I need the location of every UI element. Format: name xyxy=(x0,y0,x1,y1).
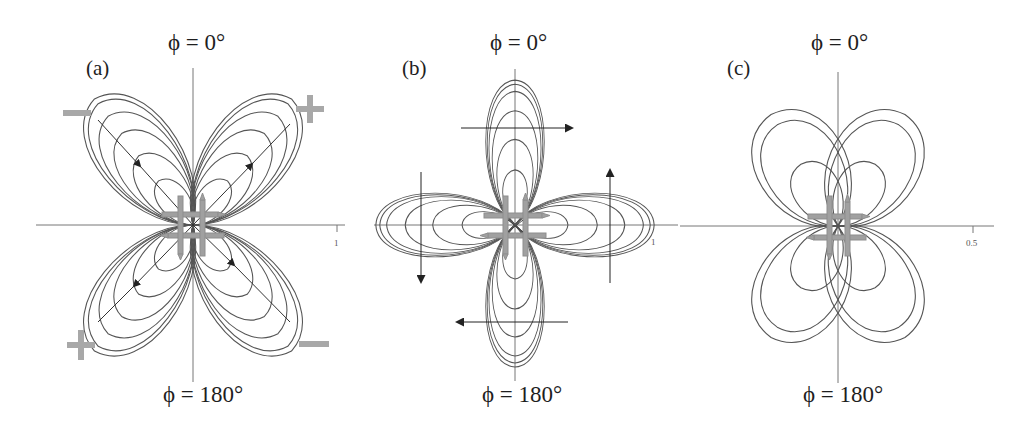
angle-label-bottom-b: ϕ = 180° xyxy=(482,382,562,408)
axis-tick-label-c: 0.5 xyxy=(966,238,977,248)
minus-sign-top-left xyxy=(63,110,91,116)
panel-c: (c) ϕ = 0° ϕ = 180° 0.5 xyxy=(680,0,1030,429)
polar-plot-a xyxy=(0,0,350,429)
axis-tick-label-a: 1 xyxy=(334,238,339,248)
panel-b: (b) ϕ = 0° ϕ = 180° 1 xyxy=(360,0,680,429)
panel-label-c: (c) xyxy=(727,56,750,81)
panel-label-b: (b) xyxy=(402,56,427,81)
axis-tick-label-b: 1 xyxy=(651,237,656,247)
plus-sign-top-right xyxy=(296,95,324,123)
angle-label-top-b: ϕ = 0° xyxy=(490,30,547,56)
angle-label-top-a: ϕ = 0° xyxy=(168,30,225,56)
plus-sign-bottom-left xyxy=(67,330,95,360)
angle-label-bottom-c: ϕ = 180° xyxy=(803,382,883,408)
angle-label-top-c: ϕ = 0° xyxy=(811,30,868,56)
minus-sign-bottom-right xyxy=(299,341,329,347)
angle-label-bottom-a: ϕ = 180° xyxy=(163,382,243,408)
panel-label-a: (a) xyxy=(86,56,109,81)
panel-a: (a) ϕ = 0° ϕ = 180° 1 xyxy=(0,0,350,429)
